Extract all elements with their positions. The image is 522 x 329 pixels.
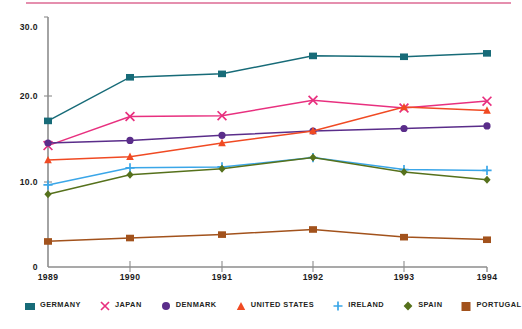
axis-lines bbox=[44, 17, 487, 272]
legend-label-germany: GERMANY bbox=[40, 300, 81, 309]
data-point bbox=[309, 53, 317, 60]
series-line bbox=[48, 126, 487, 143]
legend-label-united-states: UNITED STATES bbox=[251, 300, 314, 309]
legend-label-spain: SPAIN bbox=[418, 300, 442, 309]
data-point bbox=[400, 53, 408, 60]
data-point bbox=[400, 125, 407, 132]
data-point bbox=[126, 74, 134, 81]
data-point bbox=[218, 132, 225, 139]
portugal-square-icon bbox=[460, 298, 472, 310]
series-line bbox=[48, 53, 487, 121]
series-spain bbox=[44, 154, 490, 199]
data-point bbox=[483, 236, 491, 243]
data-point bbox=[44, 238, 52, 245]
data-point bbox=[309, 226, 317, 233]
data-point bbox=[126, 235, 134, 242]
data-point bbox=[309, 154, 316, 162]
series-denmark bbox=[44, 122, 490, 146]
data-point bbox=[400, 234, 408, 241]
data-point bbox=[218, 71, 226, 78]
data-point bbox=[44, 118, 52, 125]
series-line bbox=[48, 158, 487, 195]
data-point bbox=[44, 139, 51, 146]
chart-legend: GERMANY JAPAN DENMARK UNITED STATES IREL… bbox=[24, 296, 500, 312]
data-point bbox=[126, 171, 133, 179]
spain-diamond-icon bbox=[402, 298, 414, 310]
legend-item-united-states[interactable]: UNITED STATES bbox=[235, 298, 314, 310]
data-point bbox=[483, 176, 490, 184]
series-japan bbox=[44, 96, 492, 150]
japan-cross-x-icon bbox=[99, 298, 111, 310]
legend-label-ireland: IRELAND bbox=[348, 300, 384, 309]
legend-item-denmark[interactable]: DENMARK bbox=[160, 298, 217, 310]
legend-item-portugal[interactable]: PORTUGAL bbox=[460, 298, 521, 310]
germany-square-icon bbox=[24, 298, 36, 310]
data-series-layer bbox=[43, 50, 491, 245]
data-point bbox=[482, 166, 491, 175]
legend-label-portugal: PORTUGAL bbox=[476, 300, 521, 309]
legend-label-denmark: DENMARK bbox=[176, 300, 217, 309]
series-portugal bbox=[44, 226, 491, 245]
legend-label-japan: JAPAN bbox=[115, 300, 142, 309]
legend-item-germany[interactable]: GERMANY bbox=[24, 298, 81, 310]
data-point bbox=[483, 122, 490, 129]
series-germany bbox=[44, 50, 491, 124]
data-point bbox=[126, 137, 133, 144]
series-line bbox=[48, 158, 487, 185]
series-ireland bbox=[43, 153, 491, 190]
series-line bbox=[48, 229, 487, 241]
data-point bbox=[218, 165, 225, 173]
denmark-circle-icon bbox=[160, 298, 172, 310]
legend-item-japan[interactable]: JAPAN bbox=[99, 298, 142, 310]
united-states-triangle-icon bbox=[235, 298, 247, 310]
data-point bbox=[44, 190, 51, 198]
legend-item-spain[interactable]: SPAIN bbox=[402, 298, 442, 310]
legend-item-ireland[interactable]: IRELAND bbox=[332, 298, 384, 310]
data-point bbox=[483, 50, 491, 57]
ireland-plus-icon bbox=[332, 298, 344, 310]
data-point bbox=[218, 231, 226, 238]
